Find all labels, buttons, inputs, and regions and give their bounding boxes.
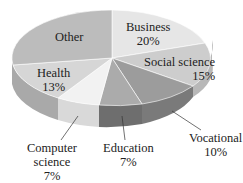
label-education: Education7% xyxy=(103,141,154,169)
label-other: Other xyxy=(55,30,83,44)
label-social-science: Social science15% xyxy=(144,55,215,83)
label-health: Health13% xyxy=(37,66,70,94)
label-vocational: Vocational10% xyxy=(189,131,242,159)
label-computer-science: Computerscience7% xyxy=(27,141,77,183)
label-business: Business20% xyxy=(126,20,170,48)
